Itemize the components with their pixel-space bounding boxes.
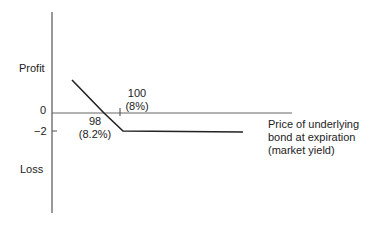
profit-label: Profit	[19, 62, 45, 75]
annotation-100-yield: (8%)	[120, 100, 154, 113]
annotation-100-price: 100	[120, 87, 154, 100]
annotation-98-yield: (8.2%)	[75, 128, 115, 141]
x-axis-label-line-2: bond at expiration	[268, 131, 359, 144]
x-axis-label-line-3: (market yield)	[268, 144, 359, 157]
y-tick-label-minus-two: −2	[34, 125, 47, 138]
y-tick-label-zero: 0	[40, 104, 46, 117]
annotation-98-price: 98	[75, 115, 115, 128]
annotation-100: 100 (8%)	[120, 87, 154, 113]
x-axis-label-line-1: Price of underlying	[268, 118, 359, 131]
x-axis-label: Price of underlying bond at expiration (…	[268, 118, 359, 157]
annotation-98: 98 (8.2%)	[75, 115, 115, 141]
payoff-chart	[0, 0, 374, 230]
loss-label: Loss	[20, 163, 43, 176]
